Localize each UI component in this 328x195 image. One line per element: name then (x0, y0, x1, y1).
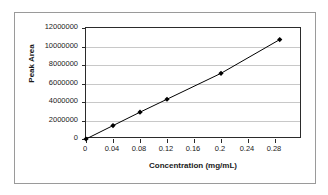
x-axis-tick-label: 0.08 (124, 145, 154, 153)
x-axis-tick (221, 139, 222, 143)
y-axis-tick-label: 4000000 (15, 97, 78, 105)
chart-screenshot: Peak Area 020000004000000600000080000001… (0, 0, 328, 195)
x-axis-tick (194, 139, 195, 143)
x-axis-tick (275, 139, 276, 143)
x-axis-tick-label: 0.2 (205, 145, 235, 153)
plot-area (85, 27, 301, 138)
y-axis-tick-label: 10000000 (15, 42, 78, 50)
series-polyline (86, 40, 280, 139)
x-axis-tick (140, 139, 141, 143)
x-axis-tick (248, 139, 249, 143)
x-axis-tick (167, 139, 168, 143)
data-point-marker (137, 110, 142, 115)
chart-frame: Peak Area 020000004000000600000080000001… (14, 12, 316, 184)
data-point-marker (277, 37, 282, 42)
x-axis-tick-label: 0.16 (178, 145, 208, 153)
x-axis-tick-label: 0.12 (151, 145, 181, 153)
data-point-marker (164, 97, 169, 102)
x-axis-tick-label: 0 (70, 145, 100, 153)
y-axis-tick-label: 12000000 (15, 23, 78, 31)
x-axis-title: Concentration (mg/mL) (85, 161, 301, 170)
y-axis-tick-label: 2000000 (15, 116, 78, 124)
y-axis-tick-label: 8000000 (15, 60, 78, 68)
x-axis-tick-label: 0.28 (259, 145, 289, 153)
x-axis-tick (113, 139, 114, 143)
y-axis-tick-label: 6000000 (15, 79, 78, 87)
series-markers (83, 37, 282, 142)
x-axis-tick-label: 0.24 (232, 145, 262, 153)
y-axis-tick-label: 0 (15, 134, 78, 142)
data-point-marker (110, 123, 115, 128)
x-axis-tick-label: 0.04 (97, 145, 127, 153)
data-series-line (86, 28, 302, 139)
data-point-marker (218, 71, 223, 76)
data-point-marker (83, 136, 88, 141)
